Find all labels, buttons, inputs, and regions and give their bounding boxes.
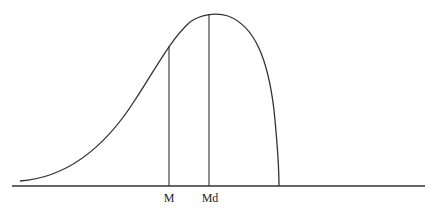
mean-label: M xyxy=(164,191,175,205)
skewed-distribution-diagram: M Md xyxy=(0,0,440,212)
distribution-curve xyxy=(20,14,279,186)
median-label: Md xyxy=(202,191,219,205)
